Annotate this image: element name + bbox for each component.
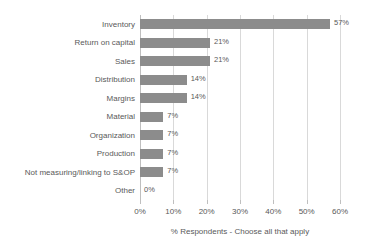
bar-row: 21% xyxy=(140,34,379,53)
bar[interactable] xyxy=(140,112,163,122)
x-tick-label: 0% xyxy=(134,206,146,218)
x-tick-label: 30% xyxy=(232,206,248,218)
category-row: Production xyxy=(0,145,135,164)
x-tick-label: 20% xyxy=(199,206,215,218)
category-row: Other xyxy=(0,182,135,201)
category-row: Sales xyxy=(0,52,135,71)
bar[interactable] xyxy=(140,19,330,29)
bar[interactable] xyxy=(140,149,163,159)
category-row: Not measuring/linking to S&OP xyxy=(0,163,135,182)
bar-value-label: 7% xyxy=(167,128,178,140)
x-axis-tick-labels: 0%10%20%30%40%50%60% xyxy=(0,206,379,220)
bar-row: 21% xyxy=(140,52,379,71)
bar-row: 14% xyxy=(140,71,379,90)
tick-mark xyxy=(307,200,308,204)
bar[interactable] xyxy=(140,167,163,177)
bar[interactable] xyxy=(140,56,210,66)
x-axis-ticks xyxy=(140,200,340,205)
tick-mark xyxy=(240,200,241,204)
bar-row: 7% xyxy=(140,108,379,127)
tick-mark xyxy=(173,200,174,204)
x-tick-label: 50% xyxy=(299,206,315,218)
bar-chart: 57%21%21%14%14%7%7%7%7%0% InventoryRetur… xyxy=(0,0,379,252)
bar-value-label: 21% xyxy=(214,36,229,48)
x-tick-label: 60% xyxy=(332,206,348,218)
category-row: Material xyxy=(0,108,135,127)
bar-value-label: 57% xyxy=(334,17,349,29)
bar-value-label: 14% xyxy=(191,91,206,103)
x-axis-title: % Respondents - Choose all that apply xyxy=(140,226,340,238)
category-label: Other xyxy=(115,185,135,196)
category-row: Distribution xyxy=(0,71,135,90)
tick-mark xyxy=(340,200,341,204)
category-label: Organization xyxy=(90,130,135,141)
bar[interactable] xyxy=(140,130,163,140)
tick-mark xyxy=(140,200,141,204)
bar-row: 57% xyxy=(140,15,379,34)
bar-value-label: 7% xyxy=(167,165,178,177)
bar-row: 14% xyxy=(140,89,379,108)
bar-series: 57%21%21%14%14%7%7%7%7%0% xyxy=(140,15,379,200)
category-row: Return on capital xyxy=(0,34,135,53)
tick-mark xyxy=(273,200,274,204)
bar-row: 7% xyxy=(140,163,379,182)
bar-value-label: 7% xyxy=(167,110,178,122)
bar-value-label: 7% xyxy=(167,147,178,159)
tick-mark xyxy=(207,200,208,204)
bar-row: 7% xyxy=(140,145,379,164)
bar[interactable] xyxy=(140,75,187,85)
category-label: Sales xyxy=(115,56,135,67)
category-label: Inventory xyxy=(102,19,135,30)
bar-value-label: 14% xyxy=(191,73,206,85)
x-tick-label: 40% xyxy=(265,206,281,218)
bar[interactable] xyxy=(140,93,187,103)
x-tick-label: 10% xyxy=(165,206,181,218)
category-label: Not measuring/linking to S&OP xyxy=(25,167,135,178)
bar[interactable] xyxy=(140,38,210,48)
category-label: Distribution xyxy=(95,74,135,85)
category-axis-labels: InventoryReturn on capitalSalesDistribut… xyxy=(0,15,135,200)
category-label: Margins xyxy=(107,93,135,104)
category-row: Organization xyxy=(0,126,135,145)
bar-value-label: 21% xyxy=(214,54,229,66)
bar-row: 7% xyxy=(140,126,379,145)
category-row: Inventory xyxy=(0,15,135,34)
bar-value-label: 0% xyxy=(144,184,155,196)
category-label: Production xyxy=(97,148,135,159)
bar-row: 0% xyxy=(140,182,379,201)
category-label: Return on capital xyxy=(75,37,135,48)
category-row: Margins xyxy=(0,89,135,108)
category-label: Material xyxy=(107,111,135,122)
